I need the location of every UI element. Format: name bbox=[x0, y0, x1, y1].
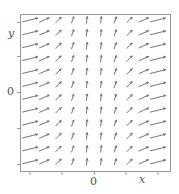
slope-field-plot bbox=[0, 0, 179, 194]
direction-arrow bbox=[127, 56, 133, 62]
direction-arrow bbox=[139, 108, 149, 112]
direction-arrow bbox=[22, 31, 38, 35]
direction-arrow bbox=[150, 83, 166, 87]
direction-arrow bbox=[150, 108, 166, 112]
direction-arrow bbox=[56, 30, 62, 36]
direction-arrows bbox=[22, 17, 165, 166]
direction-arrow bbox=[22, 57, 38, 61]
direction-arrow bbox=[22, 160, 38, 164]
direction-arrow bbox=[39, 44, 49, 48]
direction-arrow bbox=[127, 108, 133, 114]
direction-arrow bbox=[39, 134, 49, 138]
direction-arrow bbox=[150, 18, 166, 22]
direction-arrow bbox=[56, 95, 62, 101]
direction-arrow bbox=[22, 134, 38, 138]
direction-arrow bbox=[139, 31, 149, 35]
direction-arrow bbox=[56, 56, 62, 62]
direction-arrow bbox=[56, 69, 62, 75]
direction-arrow bbox=[127, 17, 133, 23]
direction-arrow bbox=[150, 57, 166, 61]
direction-arrow bbox=[150, 121, 166, 125]
y-axis-zero-label: 0 bbox=[7, 86, 14, 97]
direction-arrow bbox=[127, 120, 133, 126]
direction-arrow bbox=[22, 121, 38, 125]
direction-arrow bbox=[139, 95, 149, 99]
x-axis-label: x bbox=[139, 174, 145, 185]
direction-arrow bbox=[139, 160, 149, 164]
direction-arrow bbox=[139, 121, 149, 125]
direction-arrow bbox=[150, 147, 166, 151]
direction-arrow bbox=[39, 108, 49, 112]
direction-arrow bbox=[127, 95, 133, 101]
direction-arrow bbox=[139, 18, 149, 22]
direction-arrow bbox=[127, 43, 133, 49]
direction-arrow bbox=[39, 57, 49, 61]
direction-arrow bbox=[22, 44, 38, 48]
direction-arrow bbox=[22, 147, 38, 151]
direction-arrow bbox=[39, 82, 49, 86]
direction-arrow bbox=[56, 146, 62, 152]
direction-arrow bbox=[56, 82, 62, 88]
x-axis-zero-label: 0 bbox=[90, 176, 97, 187]
direction-arrow bbox=[39, 147, 49, 151]
direction-arrow bbox=[127, 133, 133, 139]
direction-arrow bbox=[150, 160, 166, 164]
axis-ticks bbox=[17, 23, 158, 176]
direction-arrow bbox=[150, 96, 166, 100]
direction-arrow bbox=[22, 96, 38, 100]
direction-arrow bbox=[139, 44, 149, 48]
direction-arrow bbox=[56, 108, 62, 114]
direction-arrow bbox=[150, 70, 166, 74]
direction-arrow bbox=[56, 17, 62, 23]
direction-arrow bbox=[22, 70, 38, 74]
direction-arrow bbox=[22, 18, 38, 22]
direction-arrow bbox=[139, 57, 149, 61]
direction-arrow bbox=[56, 159, 62, 165]
direction-arrow bbox=[150, 134, 166, 138]
direction-arrow bbox=[39, 160, 49, 164]
direction-arrow bbox=[139, 147, 149, 151]
direction-arrow bbox=[150, 31, 166, 35]
direction-arrow bbox=[127, 146, 133, 152]
direction-arrow bbox=[56, 120, 62, 126]
direction-arrow bbox=[39, 31, 49, 35]
direction-arrow bbox=[39, 69, 49, 73]
direction-arrow bbox=[22, 108, 38, 112]
direction-arrow bbox=[39, 121, 49, 125]
direction-arrow bbox=[22, 83, 38, 87]
direction-arrow bbox=[39, 95, 49, 99]
direction-arrow bbox=[127, 69, 133, 75]
direction-arrow bbox=[56, 133, 62, 139]
direction-arrow bbox=[139, 82, 149, 86]
direction-arrow bbox=[127, 30, 133, 36]
direction-arrow bbox=[39, 18, 49, 22]
direction-arrow bbox=[139, 69, 149, 73]
direction-arrow bbox=[127, 159, 133, 165]
direction-arrow bbox=[56, 43, 62, 49]
direction-arrow bbox=[127, 82, 133, 88]
direction-arrow bbox=[139, 134, 149, 138]
direction-arrow bbox=[150, 44, 166, 48]
y-axis-label: y bbox=[8, 28, 14, 39]
